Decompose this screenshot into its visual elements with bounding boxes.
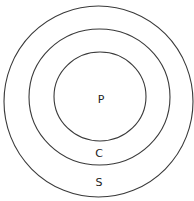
label-c: C: [95, 147, 103, 160]
label-s: S: [96, 176, 103, 189]
concentric-circles-diagram: P C S: [0, 0, 194, 201]
label-p: P: [98, 93, 105, 106]
